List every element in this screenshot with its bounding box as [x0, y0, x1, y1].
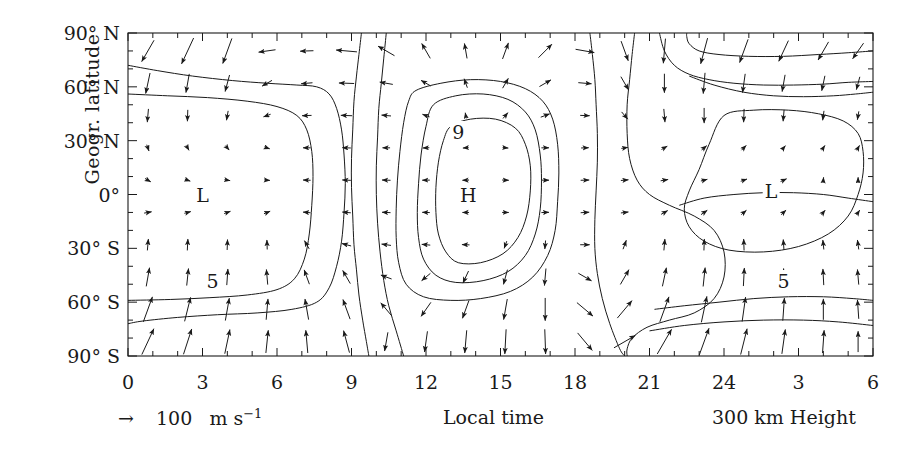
wind-vector-arrow [187, 239, 188, 250]
wind-vector-arrow [823, 177, 824, 183]
y-axis-tick-label: 30° S [34, 237, 120, 259]
wind-vector-arrow [303, 212, 311, 213]
y-axis-tick-label: 90° N [34, 22, 120, 44]
y-axis-tick-label: 0° [34, 184, 120, 206]
y-axis-tick-label: 60° N [34, 76, 120, 98]
vector-scale-value: 100 [156, 407, 192, 429]
vector-scale-unit: m s [209, 407, 243, 429]
x-axis-tick-labels: 0369121518212436 [0, 371, 901, 397]
vector-scale-arrow-icon: → [118, 407, 134, 429]
x-axis-tick-label: 9 [345, 371, 357, 393]
pressure-centre-label: H [458, 184, 479, 206]
x-axis-tick-label: 18 [563, 371, 587, 393]
vector-scale-legend: → 100 m s−1 [118, 406, 262, 429]
height-note: 300 km Height [712, 406, 856, 428]
x-axis-tick-label: 3 [196, 371, 208, 393]
contour-value-label: 5 [204, 270, 220, 292]
y-axis-tick-label: 90° S [34, 345, 120, 367]
contour-value-label: 9 [450, 121, 466, 143]
wind-vector-arrow [581, 212, 590, 213]
pressure-centre-label: L [194, 184, 211, 206]
x-axis-tick-label: 21 [637, 371, 661, 393]
wind-vector-arrow [339, 83, 354, 84]
y-axis-tick-label: 30° N [34, 130, 120, 152]
x-axis-tick-label: 15 [488, 371, 512, 393]
wind-vector-arrow [621, 180, 629, 181]
y-axis-label: Geogr. latitude [81, 19, 103, 199]
x-axis-tick-label: 6 [867, 371, 879, 393]
x-axis-label: Local time [443, 406, 544, 428]
x-axis-tick-label: 6 [271, 371, 283, 393]
y-axis-tick-label: 60° S [34, 291, 120, 313]
x-axis-tick-label: 24 [712, 371, 736, 393]
contour-value-label: 5 [776, 270, 792, 292]
pressure-centre-label: L [763, 180, 780, 202]
x-axis-tick-label: 12 [414, 371, 438, 393]
x-axis-tick-label: 0 [122, 371, 134, 393]
x-axis-tick-label: 3 [792, 371, 804, 393]
vector-scale-unit-exponent: −1 [243, 406, 262, 421]
